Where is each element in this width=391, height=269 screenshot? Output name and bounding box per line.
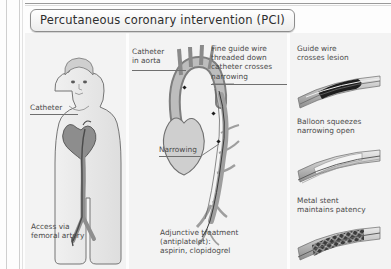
step-label-stent: Metal stent maintains patency [297, 196, 366, 214]
vessel-balloon-icon [296, 147, 384, 185]
figure-title: Percutaneous coronary intervention (PCI) [30, 9, 295, 32]
page-top-rule-shadow [25, 5, 391, 6]
label-adjunctive-treatment: Adjunctive treatment (antiplatelet): asp… [160, 228, 238, 256]
leader-catheter [30, 114, 78, 115]
figure-page: Percutaneous coronary intervention (PCI)… [0, 0, 391, 269]
label-catheter: Catheter [30, 103, 62, 112]
step-label-balloon: Balloon squeezes narrowing open [297, 117, 361, 135]
step-label-guide-wire: Guide wire crosses lesion [297, 44, 349, 62]
page-top-rule [25, 3, 391, 4]
label-femoral-access: Access via femoral artery [31, 222, 84, 240]
vessel-stent-icon [296, 224, 384, 264]
page-margin-rule-faint [22, 0, 23, 269]
page-margin-rule-outer [6, 0, 7, 269]
vessel-guidewire-icon [296, 72, 384, 108]
page-margin-rule-inner [19, 0, 20, 269]
